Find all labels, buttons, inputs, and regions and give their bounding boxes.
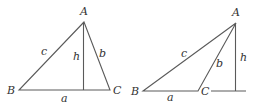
vertex-c-label: C [113,84,122,97]
vertex-b-label: B [130,85,139,98]
triangle-diagrams: A B C a b c h A B C a b c h [0,0,257,105]
vertex-c-label: C [201,85,210,98]
obtuse-triangle: A B C a b c h [130,6,247,104]
vertex-a-label: A [79,5,88,18]
vertex-b-label: B [6,84,15,97]
triangle-abc [19,22,110,90]
side-b-label: b [99,47,106,60]
side-b-label: b [216,57,223,70]
altitude-h-label: h [240,51,247,64]
side-a-label: a [61,92,68,105]
vertex-a-label: A [231,6,240,19]
side-a-label: a [167,91,174,104]
side-c-label: c [181,47,187,60]
side-c-label: c [41,45,47,58]
altitude-h-label: h [73,50,80,63]
acute-triangle: A B C a b c h [6,5,122,105]
